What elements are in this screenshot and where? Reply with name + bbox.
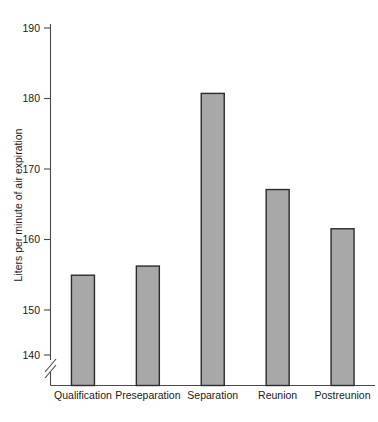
y-tick-label-160: 160 (22, 233, 40, 245)
bar-qualification (71, 275, 94, 385)
x-axis-category-labels: QualificationPreseparationSeparationReun… (54, 389, 371, 401)
bar-preseparation (136, 266, 159, 385)
y-tick-label-180: 180 (22, 92, 40, 104)
bar-reunion (266, 190, 289, 386)
bar-chart-figure: Liters per minute of air expiration 190 … (0, 0, 378, 422)
chart-canvas: Liters per minute of air expiration 190 … (0, 0, 378, 422)
x-axis-label-preseparation: Preseparation (115, 389, 181, 401)
bar-separation (201, 93, 224, 385)
x-axis-label-qualification: Qualification (54, 389, 112, 401)
x-axis-label-reunion: Reunion (258, 389, 297, 401)
bar-postreunion (331, 229, 354, 386)
x-axis-label-separation: Separation (187, 389, 238, 401)
x-axis-label-postreunion: Postreunion (315, 389, 371, 401)
y-tick-label-150: 150 (22, 304, 40, 316)
chart-background (0, 0, 378, 422)
y-tick-label-140: 140 (22, 349, 40, 361)
y-tick-label-170: 170 (22, 163, 40, 175)
y-axis-title: Liters per minute of air expiration (12, 128, 24, 281)
y-tick-label-190: 190 (22, 22, 40, 34)
